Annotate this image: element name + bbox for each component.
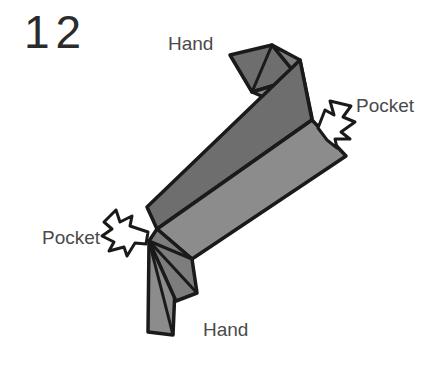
pocket-arrow-left (102, 210, 148, 256)
pocket-arrow-left-shape (102, 210, 148, 256)
label-hand-top: Hand (168, 34, 213, 53)
main-band (147, 60, 346, 270)
label-pocket-right: Pocket (356, 96, 414, 115)
label-pocket-left: Pocket (42, 228, 100, 247)
label-hand-bottom: Hand (203, 320, 248, 339)
origami-step-figure: 12 Hand Pocket (0, 0, 444, 376)
